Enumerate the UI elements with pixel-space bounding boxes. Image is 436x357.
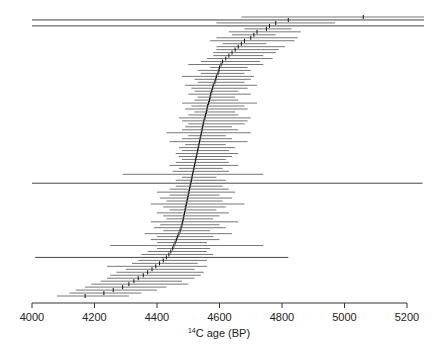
x-axis-title-superscript: 14 [188, 327, 196, 334]
x-axis: 4000420044004600480050005200 [20, 303, 419, 323]
x-axis-tick-label: 4800 [270, 311, 294, 323]
interval-bars [32, 17, 424, 296]
x-axis-title: 14C age (BP) [188, 327, 250, 339]
x-axis-ticks: 4000420044004600480050005200 [20, 303, 419, 323]
x-axis-tick-label: 4200 [82, 311, 106, 323]
x-axis-title-main: C age (BP) [196, 327, 250, 339]
x-axis-tick-label: 4600 [207, 311, 231, 323]
x-axis-tick-label: 5000 [332, 311, 356, 323]
x-axis-tick-label: 4400 [145, 311, 169, 323]
radiocarbon-interval-chart: 4000420044004600480050005200 14C age (BP… [0, 0, 436, 357]
x-axis-tick-label: 4000 [20, 311, 44, 323]
x-axis-tick-label: 5200 [395, 311, 419, 323]
